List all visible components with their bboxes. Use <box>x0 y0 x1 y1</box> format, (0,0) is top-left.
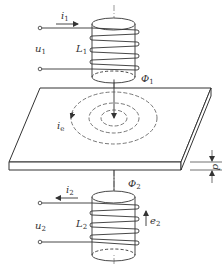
label-L2: L2 <box>75 218 87 231</box>
label-d: d <box>211 164 222 170</box>
label-u2: u2 <box>35 220 46 233</box>
label-phi2: Φ2 <box>128 178 141 191</box>
label-L1: L1 <box>75 43 87 56</box>
label-u1: u1 <box>35 43 46 56</box>
terminal-bottom-2 <box>38 240 42 244</box>
label-e2: e2 <box>150 215 160 228</box>
top-coil <box>40 18 139 83</box>
bottom-coil <box>40 191 139 261</box>
terminal-bottom-1 <box>38 201 42 205</box>
conductive-plate <box>9 88 211 170</box>
eddy-current-diagram: i1 u1 L1 Φ1 ie d Φ2 <box>0 0 224 267</box>
label-phi1: Φ1 <box>141 73 154 86</box>
terminal-top-2 <box>38 67 42 71</box>
label-i1: i1 <box>61 10 69 23</box>
terminal-top-1 <box>38 26 42 30</box>
label-i2: i2 <box>66 184 74 197</box>
